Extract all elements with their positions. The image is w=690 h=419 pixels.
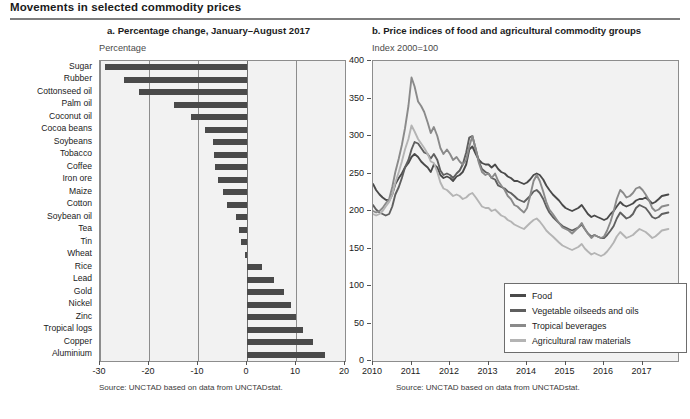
- bar-category-label: Sugar: [69, 62, 92, 71]
- bar-category-label: Aluminium: [52, 349, 92, 358]
- bar-xtick-mark: [197, 361, 198, 365]
- bar: [227, 202, 247, 208]
- bar-xtick-mark: [295, 361, 296, 365]
- bar-chart-x-axis: -30-20-1001020: [99, 361, 344, 381]
- bar-category-label: Lead: [73, 274, 92, 283]
- bar-xtick-label: 10: [290, 366, 300, 376]
- legend-line-icon: [510, 324, 526, 327]
- line-ytick-mark: [367, 173, 371, 174]
- legend-item-label: Vegetable oilseeds and oils: [532, 306, 639, 316]
- line-xtick-label: 2017: [632, 366, 652, 376]
- line-ytick-mark: [367, 98, 371, 99]
- line-xtick-mark: [603, 361, 604, 365]
- bar-xtick-label: -10: [190, 366, 203, 376]
- bar: [191, 114, 247, 120]
- bar-category-label: Wheat: [67, 249, 92, 258]
- chart-page: Movements in selected commodity prices a…: [0, 0, 690, 419]
- panel-b-source: Source: UNCTAD based on data from UNCTAD…: [396, 383, 580, 392]
- legend-item-label: Tropical beverages: [532, 321, 607, 331]
- line-xtick-label: 2011: [401, 366, 420, 376]
- bar-category-label: Tea: [78, 224, 92, 233]
- legend-line-icon: [510, 339, 526, 342]
- bar: [215, 164, 247, 170]
- line-ytick-label: 50: [338, 318, 364, 328]
- legend-line-icon: [510, 294, 526, 297]
- line-ytick-mark: [367, 60, 371, 61]
- legend-item-label: Food: [532, 291, 552, 301]
- bar-chart-plot-area: [99, 60, 346, 362]
- line-xtick-mark: [372, 361, 373, 365]
- line-xtick-label: 2015: [555, 366, 575, 376]
- bar-xtick-label: 0: [243, 366, 248, 376]
- bar-category-label: Coconut oil: [49, 112, 92, 121]
- bar-gridline--20: [149, 61, 150, 361]
- bar: [223, 189, 248, 195]
- bar-xtick-label: -20: [141, 366, 154, 376]
- bar-category-label: Copper: [64, 337, 92, 346]
- line-ytick-label: 350: [338, 93, 364, 103]
- bar-category-label: Maize: [69, 187, 92, 196]
- line-ytick-mark: [367, 135, 371, 136]
- line-xtick-label: 2014: [516, 366, 536, 376]
- bar: [218, 177, 247, 183]
- line-ytick-mark: [367, 323, 371, 324]
- bar: [105, 64, 247, 70]
- bar-category-label: Tropical logs: [44, 324, 92, 333]
- line-xtick-label: 2013: [478, 366, 498, 376]
- line-ytick-mark: [367, 210, 371, 211]
- bar-xtick-label: -30: [92, 366, 105, 376]
- bar: [245, 252, 247, 258]
- line-xtick-label: 2010: [362, 366, 382, 376]
- line-series: [373, 136, 668, 238]
- bar-category-labels: SugarRubberCottonseed oilPalm oilCoconut…: [0, 60, 95, 360]
- line-ytick-mark: [367, 360, 371, 361]
- bar-xtick-mark: [246, 361, 247, 365]
- bar: [247, 277, 274, 283]
- line-xtick-mark: [642, 361, 643, 365]
- bar: [214, 152, 247, 158]
- bar: [247, 314, 296, 320]
- panel-a-source: Source: UNCTAD based on data from UNCTAD…: [99, 383, 283, 392]
- bar: [247, 352, 325, 358]
- bar-category-label: Soybean oil: [47, 212, 92, 221]
- bar: [241, 239, 247, 245]
- bar: [124, 77, 247, 83]
- bar-category-label: Cocoa beans: [41, 124, 92, 133]
- legend-item[interactable]: Vegetable oilseeds and oils: [510, 303, 680, 318]
- legend-line-icon: [510, 309, 526, 312]
- bar: [247, 289, 284, 295]
- title-divider: [10, 18, 680, 20]
- line-ytick-mark: [367, 285, 371, 286]
- line-ytick-mark: [367, 248, 371, 249]
- line-ytick-label: 250: [338, 168, 364, 178]
- panel-b-title: b. Price indices of food and agricultura…: [372, 25, 641, 36]
- legend-item[interactable]: Food: [510, 288, 680, 303]
- bar-category-label: Rubber: [64, 74, 92, 83]
- line-ytick-label: 200: [338, 205, 364, 215]
- bar-category-label: Gold: [74, 287, 92, 296]
- legend-item[interactable]: Agricultural raw materials: [510, 333, 680, 348]
- panel-a-subtitle: Percentage: [99, 43, 146, 53]
- bar-category-label: Soybeans: [54, 137, 92, 146]
- line-xtick-mark: [526, 361, 527, 365]
- line-ytick-label: 150: [338, 243, 364, 253]
- bar: [139, 89, 247, 95]
- bar-category-label: Rice: [75, 262, 92, 271]
- bar-category-label: Palm oil: [61, 99, 92, 108]
- bar: [247, 339, 313, 345]
- bar: [247, 264, 262, 270]
- bar: [205, 127, 247, 133]
- bar-category-label: Zinc: [76, 312, 92, 321]
- bar-category-label: Coffee: [67, 162, 92, 171]
- bar-category-label: Tin: [80, 237, 92, 246]
- line-series: [373, 126, 668, 257]
- bar: [236, 214, 247, 220]
- bar: [213, 139, 247, 145]
- bar-category-label: Nickel: [69, 299, 92, 308]
- bar-category-label: Iron ore: [62, 174, 92, 183]
- bar-xtick-mark: [148, 361, 149, 365]
- legend-item[interactable]: Tropical beverages: [510, 318, 680, 333]
- legend-item-label: Agricultural raw materials: [532, 336, 631, 346]
- bar: [247, 327, 303, 333]
- bar-xtick-mark: [99, 361, 100, 365]
